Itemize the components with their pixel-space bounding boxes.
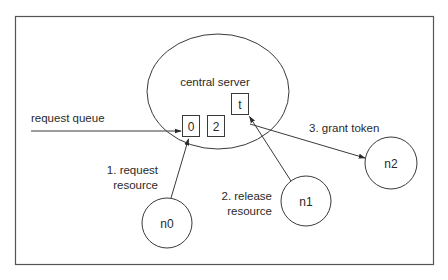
queue-slot-1-label: 2 <box>213 120 220 134</box>
request-label-line2: resource <box>113 179 158 191</box>
node-n0: n0 <box>142 198 192 248</box>
release-label-line1: 2. release <box>221 190 272 202</box>
central-server: central server 0 2 t <box>147 34 289 149</box>
edge-grant-token: 3. grant token <box>250 122 379 158</box>
request-queue: request queue <box>31 112 181 131</box>
release-label-line2: resource <box>227 205 272 217</box>
diagram-frame <box>16 17 434 265</box>
request-label-line1: 1. request <box>107 164 159 176</box>
token-label: t <box>238 98 242 112</box>
grant-label: 3. grant token <box>309 122 379 134</box>
diagram-canvas: central server 0 2 t request queue 1. re… <box>0 0 448 280</box>
node-n2-label: n2 <box>384 157 398 171</box>
queue-slot-1: 2 <box>208 116 225 137</box>
queue-slot-0-label: 0 <box>188 120 195 134</box>
node-n1: n1 <box>281 176 331 226</box>
edge-request-resource: 1. request resource <box>107 139 189 198</box>
central-server-label: central server <box>180 76 250 88</box>
queue-slot-0: 0 <box>183 116 200 137</box>
node-n0-label: n0 <box>160 217 174 231</box>
request-arrow <box>171 139 189 198</box>
node-n1-label: n1 <box>299 195 313 209</box>
token-box: t <box>232 94 249 115</box>
node-n2: n2 <box>365 137 417 189</box>
request-queue-label: request queue <box>31 112 105 124</box>
